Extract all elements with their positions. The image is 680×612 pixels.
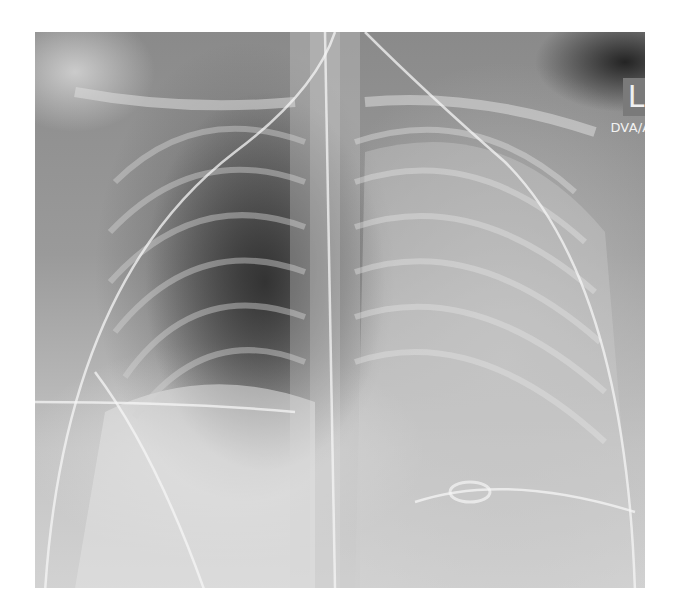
side-marker-label: L [623,78,645,116]
chest-xray-image: L DVA/AO [35,32,645,588]
xray-overlay [35,32,645,588]
marker-caption: DVA/AO [588,120,645,135]
